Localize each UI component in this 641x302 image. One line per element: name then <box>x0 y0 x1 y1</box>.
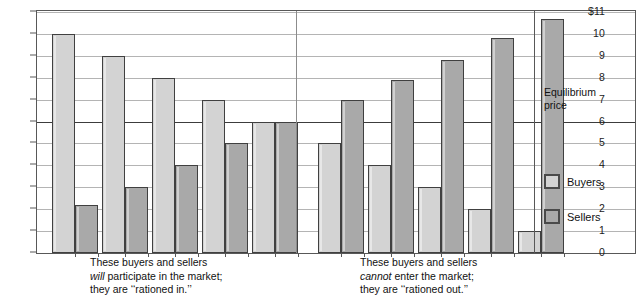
caption-left-line1: These buyers and sellers <box>90 256 222 270</box>
bar-sellers-4 <box>225 143 248 253</box>
x-tick-sellers-9 <box>514 253 515 257</box>
y-tick-label-7: 7 <box>599 93 605 105</box>
legend-label-buyers: Buyers <box>567 176 601 188</box>
bar-highlight <box>127 189 129 251</box>
legend-label-sellers: Sellers <box>567 211 601 223</box>
y-tick-label-1: 1 <box>599 224 605 236</box>
y-tick-mark-0 <box>30 252 36 253</box>
group-divider-line <box>296 11 297 253</box>
caption-right-line2: cannot enter the market; <box>360 270 477 284</box>
y-tick-label-8: 8 <box>599 71 605 83</box>
caption-left-emphasis: will <box>90 270 105 282</box>
bar-highlight <box>420 189 422 251</box>
y-tick-mark-2 <box>30 208 36 209</box>
y-tick-mark-8 <box>30 76 36 77</box>
legend-item-buyers: Buyers <box>544 174 601 189</box>
y-tick-mark-7 <box>30 98 36 99</box>
x-tick-buyers-5 <box>275 253 276 257</box>
y-tick-mark-9 <box>30 54 36 55</box>
bar-highlight <box>493 40 495 251</box>
bar-highlight <box>370 167 372 251</box>
bar-highlight <box>320 145 322 251</box>
caption-right-line2-rest: enter the market; <box>392 270 474 282</box>
y-tick-mark-1 <box>30 230 36 231</box>
bar-highlight <box>470 211 472 251</box>
legend-swatch-sellers-icon <box>544 209 560 224</box>
bar-sellers-8 <box>441 60 464 253</box>
y-tick-mark-6 <box>30 120 36 121</box>
y-tick-label-6: 6 <box>599 115 605 127</box>
y-tick-mark-3 <box>30 186 36 187</box>
chart-screenshot: Equilibrium price Buyers Sellers 0123456… <box>0 0 641 302</box>
bar-highlight <box>77 207 79 251</box>
y-tick-mark-11 <box>30 11 36 12</box>
y-tick-label-10: 10 <box>593 27 605 39</box>
legend-item-sellers: Sellers <box>544 209 601 224</box>
caption-rationed-out: These buyers and sellers cannot enter th… <box>360 256 477 297</box>
bar-sellers-6 <box>341 100 364 253</box>
y-tick-label-9: 9 <box>599 49 605 61</box>
y-tick-label-2: 2 <box>599 202 605 214</box>
x-tick-sellers-5 <box>298 253 299 257</box>
y-tick-label-11: $11 <box>588 5 605 17</box>
y-axis <box>0 0 36 302</box>
bar-highlight <box>104 58 106 251</box>
x-tick-sellers-10 <box>564 253 565 257</box>
bar-buyers-3 <box>152 78 175 253</box>
legend-swatch-buyers-icon <box>544 174 560 189</box>
equilibrium-label-line1: Equilibrium <box>544 86 596 98</box>
x-tick-buyers-1 <box>75 253 76 257</box>
bar-highlight <box>204 102 206 251</box>
y-tick-label-4: 4 <box>599 158 605 170</box>
bar-sellers-1 <box>75 205 98 253</box>
plot-area: Equilibrium price Buyers Sellers <box>36 10 636 254</box>
y-tick-mark-4 <box>30 164 36 165</box>
y-tick-label-3: 3 <box>599 180 605 192</box>
bar-highlight <box>277 124 279 251</box>
x-tick-buyers-6 <box>341 253 342 257</box>
bar-buyers-7 <box>368 165 391 253</box>
y-tick-mark-10 <box>30 32 36 33</box>
bar-buyers-5 <box>252 122 275 253</box>
x-tick-buyers-10 <box>541 253 542 257</box>
caption-left-line2-rest: participate in the market; <box>105 270 223 282</box>
x-tick-buyers-9 <box>491 253 492 257</box>
bar-buyers-6 <box>318 143 341 253</box>
caption-rationed-in: These buyers and sellers will participat… <box>90 256 222 297</box>
caption-left-line2: will participate in the market; <box>90 270 222 284</box>
bar-sellers-3 <box>175 165 198 253</box>
bar-buyers-9 <box>468 209 491 253</box>
bar-sellers-7 <box>391 80 414 253</box>
bar-highlight <box>520 233 522 251</box>
bar-buyers-4 <box>202 100 225 253</box>
bar-highlight <box>254 124 256 251</box>
bar-highlight <box>54 36 56 251</box>
x-tick-sellers-4 <box>248 253 249 257</box>
bar-sellers-5 <box>275 122 298 253</box>
equilibrium-price-label: Equilibrium price <box>544 86 596 111</box>
equilibrium-label-line2: price <box>544 99 567 111</box>
bar-sellers-2 <box>125 187 148 253</box>
y-tick-mark-5 <box>30 142 36 143</box>
caption-right-line3: they are ‘‘rationed out.’’ <box>360 283 477 297</box>
bar-highlight <box>443 62 445 251</box>
bar-sellers-9 <box>491 38 514 253</box>
bar-highlight <box>343 102 345 251</box>
y-tick-label-0: 0 <box>599 246 605 258</box>
caption-left-line3: they are ‘‘rationed in.’’ <box>90 283 222 297</box>
x-tick-buyers-4 <box>225 253 226 257</box>
y-tick-label-5: 5 <box>599 136 605 148</box>
legend-panel: Equilibrium price Buyers Sellers <box>534 11 637 253</box>
bar-buyers-2 <box>102 56 125 253</box>
caption-right-emphasis: cannot <box>360 270 392 282</box>
bar-buyers-1 <box>52 34 75 253</box>
bar-highlight <box>154 80 156 251</box>
bar-highlight <box>177 167 179 251</box>
bar-highlight <box>227 145 229 251</box>
caption-right-line1: These buyers and sellers <box>360 256 477 270</box>
bar-buyers-8 <box>418 187 441 253</box>
bar-highlight <box>393 82 395 251</box>
